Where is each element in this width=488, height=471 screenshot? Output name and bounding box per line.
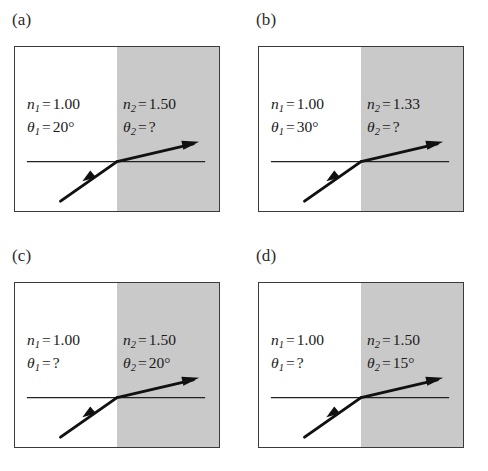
panel-a: (a) n1=1.00 θ1=20° n2=1.50 θ2=?	[0, 0, 244, 235]
n2-value-b: 1.33	[393, 95, 420, 112]
theta2-symbol-a: θ	[123, 118, 131, 135]
theta2-label-b: θ2=?	[367, 116, 420, 139]
theta1-label-a: θ1=20°	[27, 116, 80, 139]
diagram-box-a: n1=1.00 θ1=20° n2=1.50 θ2=?	[14, 46, 220, 212]
theta2-symbol-b: θ	[367, 118, 375, 135]
theta2-value-a: ?	[149, 118, 156, 135]
n1-equals-c: =	[40, 331, 53, 348]
n2-symbol-c: n	[123, 331, 131, 348]
n2-symbol-d: n	[367, 331, 375, 348]
medium2-labels-a: n2=1.50 θ2=?	[123, 93, 176, 140]
panel-c: (c) n1=1.00 θ1=? n2=1.50 θ2=20°	[0, 236, 244, 471]
theta1-symbol-c: θ	[27, 354, 35, 371]
medium2-labels-d: n2=1.50 θ2=15°	[367, 329, 420, 376]
theta1-symbol-a: θ	[27, 118, 35, 135]
theta2-value-b: ?	[393, 118, 400, 135]
n1-symbol-c: n	[27, 331, 35, 348]
theta1-symbol-d: θ	[271, 354, 279, 371]
n1-symbol-d: n	[271, 331, 279, 348]
n2-equals-d: =	[380, 331, 393, 348]
label-group-b: n1=1.00 θ1=30° n2=1.33 θ2=?	[259, 47, 463, 211]
medium1-labels-d: n1=1.00 θ1=?	[271, 329, 324, 376]
panel-label-a: (a)	[12, 10, 31, 30]
n1-label-d: n1=1.00	[271, 329, 324, 352]
theta2-value-c: 20°	[149, 354, 171, 371]
theta2-equals-c: =	[136, 354, 149, 371]
theta2-value-d: 15°	[393, 354, 415, 371]
n1-label-c: n1=1.00	[27, 329, 80, 352]
theta2-equals-a: =	[136, 118, 149, 135]
label-group-d: n1=1.00 θ1=? n2=1.50 θ2=15°	[259, 283, 463, 447]
n1-value-c: 1.00	[53, 331, 80, 348]
n2-label-b: n2=1.33	[367, 93, 420, 116]
theta1-value-d: ?	[297, 354, 304, 371]
theta1-equals-b: =	[284, 118, 297, 135]
theta2-equals-b: =	[380, 118, 393, 135]
theta1-label-c: θ1=?	[27, 352, 80, 375]
theta2-label-c: θ2=20°	[123, 352, 176, 375]
refraction-figure-grid: (a) n1=1.00 θ1=20° n2=1.50 θ2=?	[0, 0, 488, 471]
theta1-label-b: θ1=30°	[271, 116, 324, 139]
n2-label-a: n2=1.50	[123, 93, 176, 116]
theta2-label-d: θ2=15°	[367, 352, 420, 375]
panel-label-b: (b)	[256, 10, 276, 30]
n2-label-c: n2=1.50	[123, 329, 176, 352]
theta1-equals-c: =	[40, 354, 53, 371]
n1-equals-a: =	[40, 95, 53, 112]
n1-value-d: 1.00	[297, 331, 324, 348]
diagram-box-b: n1=1.00 θ1=30° n2=1.33 θ2=?	[258, 46, 464, 212]
theta2-equals-d: =	[380, 354, 393, 371]
medium1-labels-b: n1=1.00 θ1=30°	[271, 93, 324, 140]
n1-symbol-a: n	[27, 95, 35, 112]
panel-label-d: (d)	[256, 246, 276, 266]
n1-value-a: 1.00	[53, 95, 80, 112]
label-group-a: n1=1.00 θ1=20° n2=1.50 θ2=?	[15, 47, 219, 211]
theta1-value-c: ?	[53, 354, 60, 371]
theta1-symbol-b: θ	[271, 118, 279, 135]
theta1-value-b: 30°	[297, 118, 319, 135]
panel-b: (b) n1=1.00 θ1=30° n2=1.33 θ2=?	[244, 0, 488, 235]
diagram-box-c: n1=1.00 θ1=? n2=1.50 θ2=20°	[14, 282, 220, 448]
theta1-label-d: θ1=?	[271, 352, 324, 375]
diagram-box-d: n1=1.00 θ1=? n2=1.50 θ2=15°	[258, 282, 464, 448]
n1-symbol-b: n	[271, 95, 279, 112]
medium1-labels-c: n1=1.00 θ1=?	[27, 329, 80, 376]
n1-equals-d: =	[284, 331, 297, 348]
n1-label-b: n1=1.00	[271, 93, 324, 116]
theta1-value-a: 20°	[53, 118, 75, 135]
n2-symbol-b: n	[367, 95, 375, 112]
panel-d: (d) n1=1.00 θ1=? n2=1.50 θ2=15°	[244, 236, 488, 471]
label-group-c: n1=1.00 θ1=? n2=1.50 θ2=20°	[15, 283, 219, 447]
n2-equals-c: =	[136, 331, 149, 348]
n2-value-a: 1.50	[149, 95, 176, 112]
theta1-equals-d: =	[284, 354, 297, 371]
n2-symbol-a: n	[123, 95, 131, 112]
n2-label-d: n2=1.50	[367, 329, 420, 352]
medium2-labels-b: n2=1.33 θ2=?	[367, 93, 420, 140]
n1-value-b: 1.00	[297, 95, 324, 112]
theta1-equals-a: =	[40, 118, 53, 135]
n2-value-d: 1.50	[393, 331, 420, 348]
medium2-labels-c: n2=1.50 θ2=20°	[123, 329, 176, 376]
n1-equals-b: =	[284, 95, 297, 112]
n2-equals-a: =	[136, 95, 149, 112]
medium1-labels-a: n1=1.00 θ1=20°	[27, 93, 80, 140]
theta2-symbol-c: θ	[123, 354, 131, 371]
panel-label-c: (c)	[12, 246, 31, 266]
n1-label-a: n1=1.00	[27, 93, 80, 116]
n2-value-c: 1.50	[149, 331, 176, 348]
n2-equals-b: =	[380, 95, 393, 112]
theta2-symbol-d: θ	[367, 354, 375, 371]
theta2-label-a: θ2=?	[123, 116, 176, 139]
